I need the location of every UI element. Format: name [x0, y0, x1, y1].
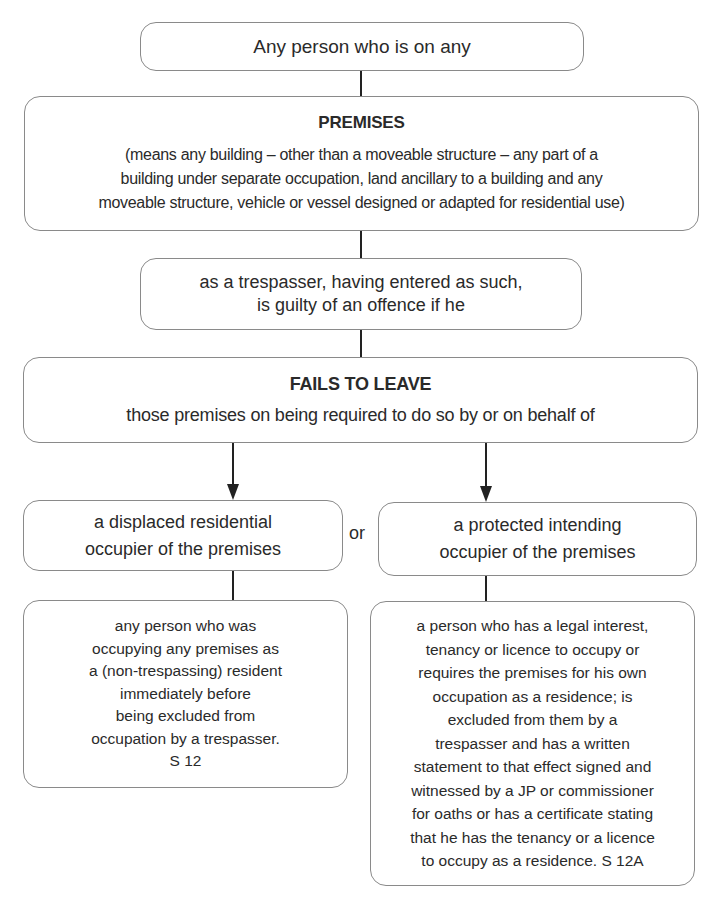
description-line: a (non-trespassing) resident [89, 660, 282, 683]
description-line: witnessed by a JP or commissioner [411, 779, 654, 803]
description-line: occupation as a residence; is [433, 685, 633, 709]
premises-title: PREMISES [318, 113, 404, 133]
connector-premises-to-trespasser [360, 231, 362, 259]
trespasser-line: is guilty of an offence if he [257, 294, 465, 317]
description-line: tenancy or licence to occupy or [426, 638, 640, 662]
description-line: that he has the tenancy or a licence [410, 826, 655, 850]
displaced-occupier-description-box: any person who was occupying any premise… [23, 600, 348, 788]
description-line: statement to that effect signed and [414, 755, 652, 779]
arrow-down-icon [480, 486, 492, 502]
description-line: a person who has a legal interest, [417, 614, 649, 638]
fails-to-leave-description: those premises on being required to do s… [126, 405, 594, 426]
description-line: occupation by a trespasser. [91, 728, 280, 751]
description-line: for oaths or has a certificate stating [412, 802, 653, 826]
connector-top-to-premises [360, 70, 362, 97]
connector-protected-to-description [485, 576, 487, 602]
fails-to-leave-box: FAILS TO LEAVE those premises on being r… [23, 357, 698, 443]
connector-fails-to-protected [485, 443, 487, 489]
description-line: trespasser and has a written [435, 732, 630, 756]
displaced-occupier-box: a displaced residential occupier of the … [23, 500, 343, 571]
protected-heading-line: a protected intending [453, 512, 621, 539]
definition-line: moveable structure, vehicle or vessel de… [98, 191, 624, 215]
protected-occupier-box: a protected intending occupier of the pr… [378, 502, 697, 576]
connector-fails-to-displaced [232, 443, 234, 487]
or-label: or [349, 523, 365, 544]
description-line-with-section-reference: to occupy as a residence. S 12A [421, 849, 643, 873]
premises-box: PREMISES (means any building – other tha… [24, 96, 699, 231]
section-reference: S 12 [170, 750, 202, 773]
start-box: Any person who is on any [140, 22, 584, 71]
description-line: occupying any premises as [92, 638, 279, 661]
start-text: Any person who is on any [253, 36, 471, 58]
description-line: excluded from them by a [448, 708, 618, 732]
connector-displaced-to-description [232, 571, 234, 601]
fails-to-leave-title: FAILS TO LEAVE [290, 374, 432, 395]
protected-occupier-description-box: a person who has a legal interest, tenan… [370, 601, 695, 886]
displaced-heading-line: a displaced residential [94, 509, 272, 536]
description-line: immediately before [120, 683, 251, 706]
arrow-down-icon [227, 484, 239, 500]
connector-trespasser-to-fails [360, 330, 362, 358]
description-line: any person who was [115, 615, 256, 638]
premises-definition: (means any building – other than a movea… [88, 143, 634, 215]
description-line: being excluded from [116, 705, 256, 728]
definition-line: (means any building – other than a movea… [98, 143, 624, 167]
definition-line: building under separate occupation, land… [98, 167, 624, 191]
trespasser-line: as a trespasser, having entered as such, [199, 271, 522, 294]
description-line: requires the premises for his own [418, 661, 646, 685]
protected-heading-line: occupier of the premises [439, 539, 635, 566]
displaced-heading-line: occupier of the premises [85, 536, 281, 563]
trespasser-box: as a trespasser, having entered as such,… [140, 258, 582, 330]
